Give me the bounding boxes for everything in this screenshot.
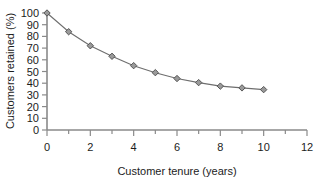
y-tick-label: 50 xyxy=(27,66,39,78)
x-tick-label: 12 xyxy=(301,141,313,153)
x-axis-group: 024681012 Customer tenure (years) xyxy=(44,130,313,177)
data-point-marker xyxy=(217,83,223,89)
y-tick-label: 70 xyxy=(27,42,39,54)
retention-chart: 0102030405060708090100 Customers retaine… xyxy=(0,0,324,188)
y-tick-label: 40 xyxy=(27,77,39,89)
y-tick-label: 80 xyxy=(27,30,39,42)
retention-markers xyxy=(44,10,267,93)
y-tick-label: 20 xyxy=(27,101,39,113)
y-tick-labels: 0102030405060708090100 xyxy=(21,7,39,136)
x-tick-label: 0 xyxy=(44,141,50,153)
y-axis-title: Customers retained (%) xyxy=(4,13,16,129)
data-point-marker xyxy=(152,69,158,75)
x-tick-label: 8 xyxy=(217,141,223,153)
x-tick-label: 2 xyxy=(87,141,93,153)
y-tick-label: 0 xyxy=(33,124,39,136)
y-tick-label: 10 xyxy=(27,112,39,124)
series-group xyxy=(44,10,267,93)
y-axis-group: 0102030405060708090100 Customers retaine… xyxy=(4,7,47,136)
y-tick-label: 90 xyxy=(27,19,39,31)
y-tick-label: 30 xyxy=(27,89,39,101)
data-point-marker xyxy=(195,79,201,85)
chart-canvas: 0102030405060708090100 Customers retaine… xyxy=(0,0,324,188)
data-point-marker xyxy=(130,62,136,68)
data-point-marker xyxy=(87,43,93,49)
data-point-marker xyxy=(239,85,245,91)
data-point-marker xyxy=(174,75,180,81)
retention-line xyxy=(47,13,264,90)
x-axis-title: Customer tenure (years) xyxy=(117,165,236,177)
x-tick-label: 10 xyxy=(258,141,270,153)
data-point-marker xyxy=(109,53,115,59)
data-point-marker xyxy=(260,86,266,92)
y-tick-label: 100 xyxy=(21,7,39,19)
x-tick-label: 4 xyxy=(131,141,137,153)
y-tick-label: 60 xyxy=(27,54,39,66)
x-tick-marks xyxy=(47,130,307,136)
x-tick-label: 6 xyxy=(174,141,180,153)
x-tick-labels: 024681012 xyxy=(44,141,313,153)
